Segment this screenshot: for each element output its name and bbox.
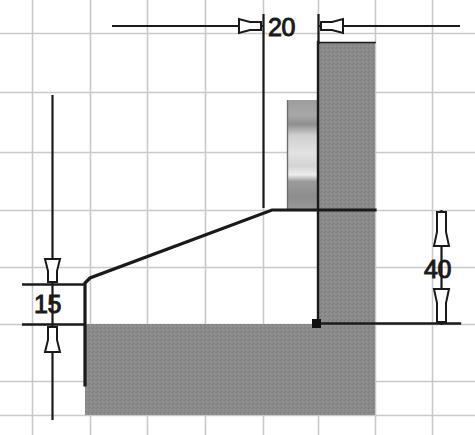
upright-column-hatch [318, 42, 375, 415]
dim-15-arrow-top-icon [45, 259, 60, 282]
dim-20-arrow-right-icon [321, 19, 343, 33]
inner-gradient-face [287, 100, 317, 210]
dimension-20-group: 20 [112, 13, 460, 208]
dim-40-label: 40 [424, 255, 451, 283]
base-slab-hatch [85, 324, 318, 415]
drawing-svg: 20 15 40 [0, 0, 475, 435]
endpoint-markers-layer [312, 319, 321, 328]
technical-drawing-canvas: 20 15 40 [0, 0, 475, 435]
dim-20-arrow-left-icon [239, 19, 261, 33]
dim-15-label: 15 [34, 290, 61, 318]
hatch-regions-layer [85, 42, 375, 415]
dim-20-label: 20 [268, 13, 295, 41]
dim-15-arrow-bottom-icon [45, 327, 60, 352]
dim-40-arrow-top-icon [434, 212, 449, 246]
dimension-15-group: 15 [22, 95, 84, 420]
dim-40-arrow-bottom-icon [434, 289, 449, 322]
dimension-40-group: 40 [424, 210, 451, 325]
endpoint-square-marker [312, 319, 321, 328]
